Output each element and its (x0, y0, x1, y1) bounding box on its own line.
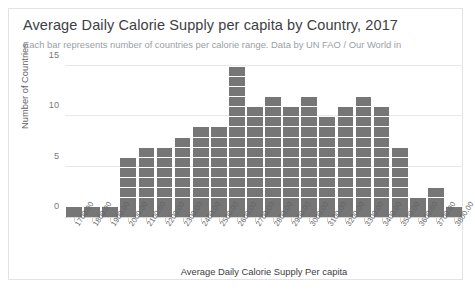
bar-segment (247, 147, 263, 157)
bar-segment (301, 106, 317, 116)
bar-segment (193, 177, 209, 187)
bar-segment (319, 116, 335, 126)
bar-segment (120, 187, 136, 197)
bar-segment (120, 167, 136, 177)
y-axis-labels: 051015 (31, 66, 59, 217)
bar-segment (319, 147, 335, 157)
bar-segment (247, 126, 263, 136)
bar-segment (193, 187, 209, 197)
bar-segment (374, 177, 390, 187)
y-axis-tick-label: 0 (35, 201, 59, 211)
bar-segment (265, 177, 281, 187)
bar-segment (301, 147, 317, 157)
bar-segment (193, 167, 209, 177)
bar[interactable] (265, 96, 281, 217)
bar-segment (229, 96, 245, 106)
bar-segment (247, 167, 263, 177)
bar[interactable] (229, 66, 245, 217)
chart-subtitle: Each bar represents number of countries … (23, 39, 401, 50)
bar-segment (283, 157, 299, 167)
bar-segment (265, 157, 281, 167)
bar-segment (356, 137, 372, 147)
bar-segment (229, 126, 245, 136)
bar-segment (283, 116, 299, 126)
bar-segment (374, 147, 390, 157)
bar-segment (265, 116, 281, 126)
bar[interactable] (301, 96, 317, 217)
bar-segment (392, 177, 408, 187)
bar-segment (120, 157, 136, 167)
bar-segment (265, 96, 281, 106)
bar-segment (301, 116, 317, 126)
y-axis-tick-label: 5 (35, 151, 59, 161)
bar-segment (139, 167, 155, 177)
bar-segment (338, 147, 354, 157)
bar-segment (229, 106, 245, 116)
bar-segment (265, 137, 281, 147)
bar-segment (247, 137, 263, 147)
bar-segment (193, 126, 209, 136)
bar-segment (247, 187, 263, 197)
bar-segment (229, 157, 245, 167)
bar-segment (229, 167, 245, 177)
bar-segment (175, 177, 191, 187)
bar[interactable] (356, 96, 372, 217)
bar-segment (211, 177, 227, 187)
page-title: Average Daily Calorie Supply per capita … (23, 17, 398, 33)
bar-segment (392, 187, 408, 197)
bar-segment (175, 137, 191, 147)
bar-segment (229, 147, 245, 157)
bar-segment (175, 157, 191, 167)
bar-segment (247, 116, 263, 126)
bar-segment (338, 177, 354, 187)
bar-segment (193, 157, 209, 167)
bar-segment (211, 167, 227, 177)
bar-series (65, 66, 463, 217)
bar-segment (356, 116, 372, 126)
bar-segment (157, 177, 173, 187)
bar-segment (265, 126, 281, 136)
bar-segment (392, 147, 408, 157)
bar-segment (211, 147, 227, 157)
bar-segment (319, 177, 335, 187)
bar-segment (283, 187, 299, 197)
bar-segment (338, 187, 354, 197)
bar-segment (211, 126, 227, 136)
bar-segment (374, 126, 390, 136)
bar-segment (211, 187, 227, 197)
bar-segment (157, 187, 173, 197)
bar-segment (283, 137, 299, 147)
bar-segment (229, 66, 245, 76)
bar-segment (211, 157, 227, 167)
bar-segment (319, 157, 335, 167)
bar-segment (301, 157, 317, 167)
bar-segment (283, 177, 299, 187)
plot-area (65, 66, 463, 217)
bar-segment (139, 187, 155, 197)
bar-segment (265, 167, 281, 177)
bar-segment (319, 126, 335, 136)
bar-segment (247, 177, 263, 187)
bar-segment (338, 157, 354, 167)
bar-segment (356, 147, 372, 157)
bar-segment (301, 177, 317, 187)
bar-segment (374, 116, 390, 126)
bar-segment (229, 137, 245, 147)
bar-segment (247, 106, 263, 116)
bar-segment (229, 76, 245, 86)
bar-segment (356, 157, 372, 167)
bar-segment (265, 106, 281, 116)
bar-segment (374, 167, 390, 177)
bar-segment (356, 106, 372, 116)
bar-segment (265, 187, 281, 197)
bar-segment (428, 187, 444, 197)
bar-segment (157, 147, 173, 157)
bar-segment (374, 157, 390, 167)
bar-segment (374, 106, 390, 116)
x-axis-labels: 1700.001800.001900.002000.002100.002200.… (65, 223, 470, 267)
bar-segment (338, 106, 354, 116)
bar-segment (301, 96, 317, 106)
bar-segment (301, 126, 317, 136)
bar-segment (139, 157, 155, 167)
bar-segment (338, 167, 354, 177)
